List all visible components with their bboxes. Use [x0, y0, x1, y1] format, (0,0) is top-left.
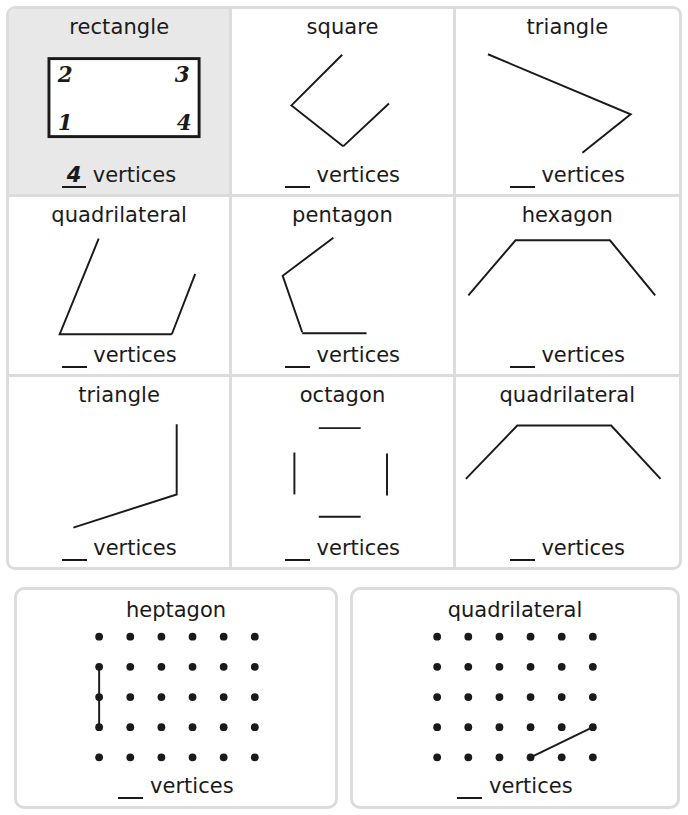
worksheet-page: rectangle 2 3 1 4 4 vertices square __: [0, 0, 688, 815]
answer-blank-quadrilateral-1[interactable]: __: [62, 344, 87, 368]
answer-square[interactable]: __ vertices: [232, 163, 452, 188]
answer-pentagon[interactable]: __ vertices: [232, 343, 452, 368]
geoboard-dots-quadrilateral: [433, 633, 596, 761]
answer-quadrilateral-geoboard[interactable]: __ vertices: [353, 774, 677, 799]
answer-rectangle[interactable]: 4 vertices: [9, 163, 229, 188]
cell-octagon[interactable]: octagon __ vertices: [232, 377, 455, 567]
cell-rectangle[interactable]: rectangle 2 3 1 4 4 vertices: [9, 9, 232, 197]
cell-triangle-1[interactable]: triangle __ vertices: [456, 9, 679, 197]
answer-label-quadrilateral-2: vertices: [541, 536, 624, 560]
answer-label-pentagon: vertices: [317, 343, 400, 367]
answer-octagon[interactable]: __ vertices: [232, 536, 452, 561]
answer-label-heptagon: vertices: [150, 774, 233, 798]
answer-hexagon[interactable]: __ vertices: [456, 343, 679, 368]
cell-hexagon[interactable]: hexagon __ vertices: [456, 197, 679, 377]
answer-triangle-1[interactable]: __ vertices: [456, 163, 679, 188]
answer-blank-heptagon[interactable]: __: [118, 775, 143, 799]
answer-label-hexagon: vertices: [541, 343, 624, 367]
cell-quadrilateral-1[interactable]: quadrilateral __ vertices: [9, 197, 232, 377]
answer-blank-square[interactable]: __: [285, 164, 310, 188]
answer-quadrilateral-1[interactable]: __ vertices: [9, 343, 229, 368]
answer-blank-triangle-1[interactable]: __: [510, 164, 535, 188]
answer-heptagon[interactable]: __ vertices: [17, 774, 335, 799]
geoboard-dots-heptagon: [95, 633, 258, 761]
shape-grid: rectangle 2 3 1 4 4 vertices square __: [6, 6, 682, 570]
svg-text:3: 3: [175, 62, 190, 87]
panel-heptagon-geoboard[interactable]: heptagon __ vertices: [14, 587, 338, 809]
answer-label-octagon: vertices: [317, 536, 400, 560]
cell-quadrilateral-2[interactable]: quadrilateral __ vertices: [456, 377, 679, 567]
answer-blank-quadrilateral-2[interactable]: __: [510, 537, 535, 561]
answer-blank-triangle-2[interactable]: __: [62, 537, 87, 561]
cell-triangle-2[interactable]: triangle __ vertices: [9, 377, 232, 567]
answer-blank-rectangle[interactable]: 4: [62, 164, 86, 188]
answer-quadrilateral-2[interactable]: __ vertices: [456, 536, 679, 561]
answer-label-square: vertices: [317, 163, 400, 187]
answer-blank-hexagon[interactable]: __: [510, 344, 535, 368]
answer-label-triangle-1: vertices: [541, 163, 624, 187]
answer-label-rectangle: vertices: [93, 163, 176, 187]
answer-blank-pentagon[interactable]: __: [285, 344, 310, 368]
panel-quadrilateral-geoboard[interactable]: quadrilateral __ vertices: [350, 587, 680, 809]
answer-label-quadrilateral-geoboard: vertices: [489, 774, 572, 798]
answer-label-quadrilateral-1: vertices: [93, 343, 176, 367]
cell-square[interactable]: square __ vertices: [232, 9, 455, 197]
svg-text:2: 2: [57, 62, 73, 87]
answer-triangle-2[interactable]: __ vertices: [9, 536, 229, 561]
answer-label-triangle-2: vertices: [93, 536, 176, 560]
svg-text:4: 4: [177, 110, 192, 135]
answer-blank-octagon[interactable]: __: [285, 537, 310, 561]
svg-text:1: 1: [58, 110, 73, 135]
geoboard-segment-quadrilateral: [531, 727, 593, 757]
answer-blank-quadrilateral-geoboard[interactable]: __: [457, 775, 482, 799]
cell-pentagon[interactable]: pentagon __ vertices: [232, 197, 455, 377]
